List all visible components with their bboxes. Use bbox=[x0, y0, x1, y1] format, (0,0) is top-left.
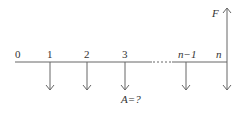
period-label-n-minus-1: n−1 bbox=[178, 48, 196, 60]
down-arrow-icon bbox=[223, 62, 231, 90]
down-arrow-icon bbox=[83, 62, 91, 90]
annuity-label: A=? bbox=[120, 93, 141, 105]
down-arrow-icon bbox=[121, 62, 129, 90]
down-arrow-icon bbox=[46, 62, 54, 90]
cash-flow-diagram: 0 1 2 3 n−1 n F A=? bbox=[0, 0, 245, 113]
period-label-n: n bbox=[216, 48, 222, 60]
period-label-1: 1 bbox=[47, 48, 53, 60]
down-arrow-icon bbox=[182, 62, 190, 90]
period-label-3: 3 bbox=[122, 48, 128, 60]
period-label-0: 0 bbox=[15, 48, 21, 60]
future-value-label: F bbox=[211, 7, 219, 19]
period-label-2: 2 bbox=[84, 48, 90, 60]
up-arrow-icon bbox=[223, 8, 231, 62]
